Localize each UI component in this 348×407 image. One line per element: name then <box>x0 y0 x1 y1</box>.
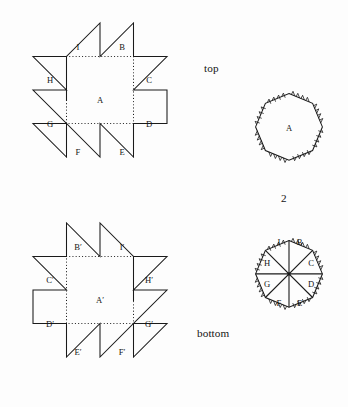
sector-label-B: B <box>297 237 303 247</box>
octagon-center-dot <box>287 272 290 275</box>
top-left-inner-octagon <box>67 57 134 124</box>
star-point-label-H-prime: H′ <box>145 275 153 285</box>
bottom-left-star-group: B′ I′ H′ G′ F′ E′ D′ C′ A′ <box>33 223 167 357</box>
caption-top: top <box>204 62 219 74</box>
octagon-center-label-A: A <box>286 123 293 133</box>
bottom-left-inner-octagon <box>67 257 134 324</box>
sector-label-G: G <box>264 279 270 289</box>
star-point-label-E: E <box>119 147 124 157</box>
star-point-label-E-prime: E′ <box>74 347 81 357</box>
sector-label-D: D <box>308 279 314 289</box>
star-center-label-A: A <box>97 95 104 105</box>
star-point-label-H: H <box>47 75 53 85</box>
figure-diagram: I B C D E F G H A <box>0 0 348 407</box>
star-point-label-G-prime: G′ <box>145 319 153 329</box>
figure-canvas: I B C D E F G H A <box>0 0 348 407</box>
star-point-label-D-prime: D′ <box>46 319 54 329</box>
sector-label-F: F <box>277 298 282 308</box>
sector-label-I: I <box>278 237 281 247</box>
star-center-label-A-prime: A′ <box>96 295 104 305</box>
bottom-left-star-outline <box>33 223 167 357</box>
sector-label-H: H <box>264 258 270 268</box>
caption-bottom: bottom <box>197 327 229 339</box>
top-left-star-group: I B C D E F G H A <box>33 23 167 157</box>
bottom-right-octagon-group: I B C D E F G H <box>255 237 323 309</box>
star-point-label-I-prime: I′ <box>120 242 125 252</box>
star-point-label-D: D <box>146 119 152 129</box>
star-point-label-C-prime: C′ <box>46 275 54 285</box>
sector-label-E: E <box>297 298 302 308</box>
top-right-octagon-group: A <box>255 91 323 162</box>
figure-number: 2 <box>281 192 287 204</box>
sector-label-C: C <box>308 258 314 268</box>
star-point-label-C: C <box>146 75 152 85</box>
star-point-label-B-prime: B′ <box>74 242 82 252</box>
star-point-label-F-prime: F′ <box>119 347 126 357</box>
top-left-star-outline <box>33 23 167 157</box>
star-point-label-G: G <box>47 119 53 129</box>
star-point-label-F: F <box>76 147 81 157</box>
star-point-label-I: I <box>77 42 80 52</box>
star-point-label-B: B <box>119 42 125 52</box>
